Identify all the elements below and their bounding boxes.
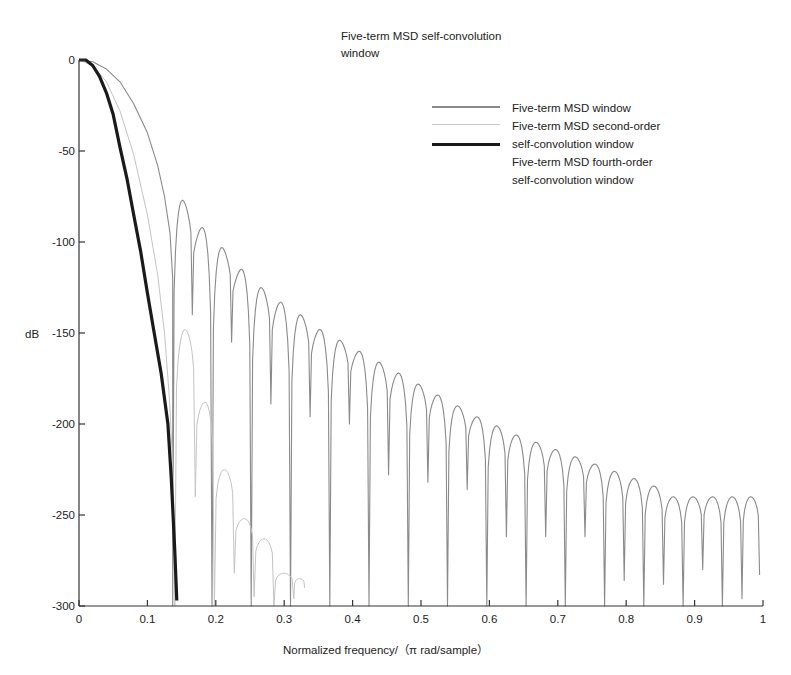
x-tick-label: 1	[760, 613, 766, 625]
x-tick-label: 0.3	[276, 613, 292, 625]
x-tick-label: 0.5	[413, 613, 429, 625]
y-axis-label: dB	[25, 328, 39, 340]
y-tick-label: -150	[52, 327, 75, 339]
x-tick-label: 0.4	[345, 613, 362, 625]
x-tick-label: 0.2	[208, 613, 224, 625]
x-tick-label: 0.1	[139, 613, 155, 625]
y-tick-label: -200	[52, 418, 75, 430]
y-tick-label: -300	[52, 600, 75, 612]
legend-swatch-msd-window	[432, 106, 500, 108]
x-tick-label: 0	[76, 613, 82, 625]
y-tick-label: -100	[52, 236, 75, 248]
y-tick-label: -50	[58, 145, 75, 157]
y-tick-label: -250	[52, 509, 75, 521]
x-tick-label: 0.8	[618, 613, 634, 625]
legend-label: Five-term MSD window	[512, 99, 631, 117]
chart-title-line-2: window	[341, 45, 561, 62]
legend-label: self-convolution window	[512, 171, 633, 189]
series-msd-window-line	[79, 60, 760, 606]
legend-label: self-convolution window	[512, 135, 633, 153]
series-second-order-line	[79, 60, 305, 606]
x-axis-label: Normalized frequency/（π rad/sample）	[283, 641, 488, 657]
x-tick-label: 0.9	[687, 613, 703, 625]
legend-swatch-fourth-order	[432, 143, 500, 146]
chart-canvas: 00.10.20.30.40.50.60.70.80.910-50-100-15…	[0, 0, 791, 675]
y-tick-label: 0	[69, 54, 75, 66]
legend-label: Five-term MSD fourth-order	[512, 153, 653, 171]
chart-title: Five-term MSD self-convolution window	[341, 28, 561, 62]
x-tick-label: 0.6	[481, 613, 497, 625]
series-fourth-order-line	[79, 60, 177, 601]
legend-swatch-second-order	[432, 124, 500, 125]
legend-label: Five-term MSD second-order	[512, 117, 660, 135]
chart-title-line-1: Five-term MSD self-convolution	[341, 28, 561, 45]
x-tick-label: 0.7	[550, 613, 566, 625]
plot-area	[79, 60, 760, 606]
